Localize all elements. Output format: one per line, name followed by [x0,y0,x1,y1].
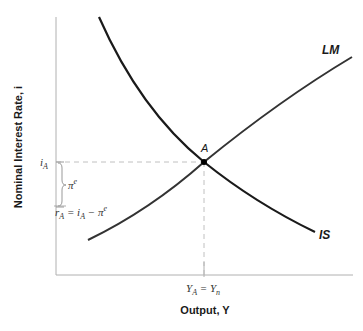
lm-label: LM [322,43,340,57]
expected-inflation-label: πe [68,177,78,191]
x-axis-title: Output, Y [180,304,230,316]
is-curve [99,17,315,232]
lm-curve [88,57,352,240]
y-a-label: YA = Yn [186,282,220,297]
i-a-label: iA [40,156,48,171]
point-a-label: A [200,142,208,154]
y-axis-title: Nominal Interest Rate, i [12,86,24,208]
brace-icon [58,163,66,206]
is-label: IS [319,228,330,242]
is-lm-diagram: Nominal Interest Rate, i Output, Y iA πe… [0,0,363,331]
equilibrium-point-a [201,159,207,165]
